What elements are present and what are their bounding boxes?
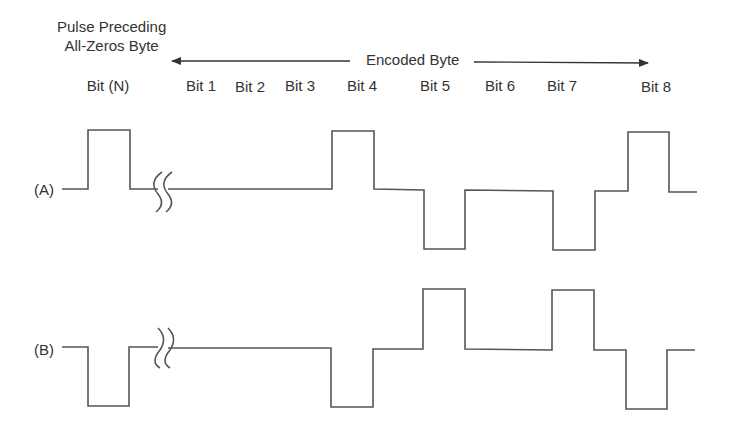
waveform-b [62,289,695,409]
break-symbol-a [154,172,172,212]
waveform-a [62,130,697,250]
break-symbol-b [155,328,174,368]
waveforms [0,0,735,441]
